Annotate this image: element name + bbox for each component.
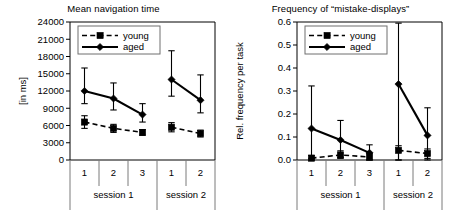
x-category-label: 1	[169, 167, 174, 178]
series-line-young	[399, 150, 428, 153]
data-point-young	[81, 119, 87, 125]
x-group-label: session 2	[166, 189, 206, 200]
error-bar-aged	[395, 23, 401, 160]
y-tick-label: 24000	[38, 16, 64, 27]
x-group-label: session 2	[393, 189, 433, 200]
y-tick-label: 0.3	[278, 85, 291, 96]
x-group-label: session 1	[93, 189, 133, 200]
y-tick-label: 0	[59, 154, 64, 165]
y-axis-title: [in ms]	[17, 77, 28, 105]
x-category-label: 2	[198, 167, 203, 178]
x-category-label: 1	[396, 167, 401, 178]
legend-swatch-young-marker	[324, 32, 330, 38]
legend-swatch-young-marker	[97, 32, 103, 38]
chart-panel-mistake-displays: Frequency of “mistake-displays” 0.00.10.…	[227, 0, 454, 215]
series-line-aged	[172, 80, 201, 101]
data-point-young	[197, 130, 203, 136]
data-point-aged	[81, 87, 88, 94]
legend-label-aged: aged	[123, 41, 144, 52]
x-category-label: 2	[425, 167, 430, 178]
error-bar-aged	[81, 68, 87, 104]
y-tick-label: 0.0	[278, 154, 291, 165]
data-point-young	[168, 124, 174, 130]
legend-label-young: young	[350, 30, 376, 41]
error-bar-aged	[308, 86, 314, 158]
chart-canvas-left: 03000600090001200015000180002100024000[i…	[0, 0, 227, 215]
y-tick-label: 18000	[38, 51, 64, 62]
x-category-label: 2	[338, 167, 343, 178]
y-tick-label: 0.5	[278, 39, 291, 50]
x-category-label: 3	[367, 167, 372, 178]
y-tick-label: 0.1	[278, 131, 291, 142]
data-point-young	[110, 125, 116, 131]
x-category-label: 1	[82, 167, 87, 178]
y-tick-label: 0.4	[278, 62, 291, 73]
data-point-aged	[308, 125, 315, 132]
x-category-label: 2	[111, 167, 116, 178]
series-line-aged	[399, 84, 428, 135]
chart-panel-navigation-time: Mean navigation time 0300060009000120001…	[0, 0, 227, 215]
data-point-aged	[337, 136, 344, 143]
error-bar-aged	[197, 75, 203, 113]
y-tick-label: 0.6	[278, 16, 291, 27]
data-point-young	[139, 129, 145, 135]
chart-canvas-right: 0.00.10.20.30.40.50.6Rel. frequency per …	[227, 0, 454, 215]
y-tick-label: 9000	[43, 103, 64, 114]
x-group-label: session 1	[320, 189, 360, 200]
figure-two-panel-chart: Mean navigation time 0300060009000120001…	[0, 0, 454, 215]
x-category-label: 1	[309, 167, 314, 178]
y-axis-title: Rel. frequency per task	[234, 42, 245, 140]
legend-label-young: young	[123, 30, 149, 41]
y-tick-label: 12000	[38, 85, 64, 96]
y-tick-label: 6000	[43, 120, 64, 131]
y-tick-label: 21000	[38, 34, 64, 45]
legend-label-aged: aged	[350, 41, 371, 52]
x-category-label: 3	[140, 167, 145, 178]
y-tick-label: 0.2	[278, 108, 291, 119]
y-tick-label: 3000	[43, 137, 64, 148]
error-bar-aged	[168, 51, 174, 96]
series-line-young	[172, 127, 201, 133]
y-tick-label: 15000	[38, 68, 64, 79]
